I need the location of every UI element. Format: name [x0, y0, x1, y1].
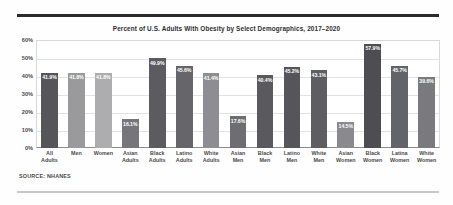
bar-value-label: 45.7% — [391, 67, 408, 73]
top-divider-rule — [17, 14, 439, 17]
bar-slot: 43.1% — [305, 40, 332, 148]
x-category-label-line: Asian — [117, 150, 144, 157]
x-category-label: BlackAdults — [144, 150, 171, 165]
x-category-label-line: Adults — [36, 157, 63, 164]
x-category-label-line: White — [413, 150, 440, 157]
bar[interactable]: 43.1% — [311, 70, 328, 148]
bar-slot: 49.9% — [144, 40, 171, 148]
y-tick-label: 30% — [3, 91, 33, 97]
bar-value-label: 41.8% — [68, 74, 85, 80]
bar-slot: 17.6% — [225, 40, 252, 148]
bar-value-label: 49.9% — [149, 60, 166, 66]
bar-slot: 40.4% — [252, 40, 279, 148]
bar-value-label: 41.8% — [95, 74, 112, 80]
x-category-label-line: Men — [225, 157, 252, 164]
y-tick-label: 20% — [3, 109, 33, 115]
bar-value-label: 16.1% — [122, 121, 139, 127]
x-category-label-line: Men — [278, 157, 305, 164]
x-category-label-line: Asian — [225, 150, 252, 157]
bar-value-label: 45.6% — [176, 67, 193, 73]
x-category-label-line: Asian — [332, 150, 359, 157]
bar-value-label: 17.6% — [230, 118, 247, 124]
bar-value-label: 39.6% — [418, 78, 435, 84]
bar-slot: 45.2% — [278, 40, 305, 148]
x-category-label-line: Black — [359, 150, 386, 157]
x-category-label-line: Men — [252, 157, 279, 164]
bar-value-label: 43.1% — [311, 72, 328, 78]
bar[interactable]: 45.6% — [176, 66, 193, 148]
x-category-label: BlackWomen — [359, 150, 386, 165]
y-tick-label: 50% — [3, 55, 33, 61]
bars-group: 41.9%41.8%41.8%16.1%49.9%45.6%41.4%17.6%… — [36, 40, 440, 148]
x-category-label-line: Latino — [278, 150, 305, 157]
x-category-label: Men — [63, 150, 90, 165]
bar[interactable]: 17.6% — [230, 116, 247, 148]
bar-value-label: 41.4% — [203, 75, 220, 81]
bar[interactable]: 39.6% — [418, 77, 435, 148]
bar-value-label: 45.2% — [284, 68, 301, 74]
x-category-label: WhiteAdults — [198, 150, 225, 165]
x-category-label-line: White — [305, 150, 332, 157]
bar-value-label: 41.9% — [41, 74, 58, 80]
bar[interactable]: 16.1% — [122, 119, 139, 148]
x-category-label: AsianWomen — [332, 150, 359, 165]
x-category-label: LatinaWomen — [386, 150, 413, 165]
bar-slot: 57.9% — [359, 40, 386, 148]
bar-value-label: 14.5% — [337, 123, 354, 129]
y-tick-label: 40% — [3, 73, 33, 79]
x-category-label-line: Latino — [171, 150, 198, 157]
y-tick-label: 10% — [3, 127, 33, 133]
x-category-label-line: Men — [63, 150, 90, 157]
bar[interactable]: 45.7% — [391, 66, 408, 148]
bar[interactable]: 41.4% — [203, 73, 220, 148]
x-category-label-line: Men — [305, 157, 332, 164]
bar-slot: 41.8% — [90, 40, 117, 148]
x-category-label-line: Women — [359, 157, 386, 164]
bar[interactable]: 14.5% — [337, 122, 354, 148]
bar[interactable]: 41.8% — [95, 73, 112, 148]
bar-slot: 41.8% — [63, 40, 90, 148]
x-category-label-line: Women — [90, 150, 117, 157]
x-axis-category-labels: AllAdultsMenWomenAsianAdultsBlackAdultsL… — [36, 150, 440, 165]
bar[interactable]: 45.2% — [284, 67, 301, 148]
x-category-label: BlackMen — [252, 150, 279, 165]
x-category-label-line: Women — [386, 157, 413, 164]
x-category-label-line: All — [36, 150, 63, 157]
x-category-label-line: Women — [332, 157, 359, 164]
x-category-label-line: Black — [144, 150, 171, 157]
x-category-label: AsianMen — [225, 150, 252, 165]
bar-slot: 14.5% — [332, 40, 359, 148]
bar-slot: 41.4% — [198, 40, 225, 148]
chart-figure: Percent of U.S. Adults With Obesity by S… — [0, 0, 453, 205]
x-category-label-line: Adults — [144, 157, 171, 164]
x-category-label-line: Adults — [171, 157, 198, 164]
y-tick-label: 60% — [3, 37, 33, 43]
bar[interactable]: 49.9% — [149, 58, 166, 148]
bar-slot: 41.9% — [36, 40, 63, 148]
x-category-label-line: White — [198, 150, 225, 157]
x-category-label: LatinoMen — [278, 150, 305, 165]
x-category-label-line: Women — [413, 157, 440, 164]
y-tick-label: 0% — [3, 145, 33, 151]
x-category-label: AsianAdults — [117, 150, 144, 165]
bar[interactable]: 40.4% — [257, 75, 274, 148]
x-category-label-line: Latina — [386, 150, 413, 157]
x-category-label-line: Black — [252, 150, 279, 157]
x-category-label: WhiteWomen — [413, 150, 440, 165]
bar[interactable]: 41.9% — [41, 73, 58, 148]
x-category-label: Women — [90, 150, 117, 165]
bar-value-label: 40.4% — [257, 77, 274, 83]
bar-value-label: 57.9% — [364, 45, 381, 51]
chart-title: Percent of U.S. Adults With Obesity by S… — [0, 25, 453, 32]
bar[interactable]: 57.9% — [364, 44, 381, 148]
source-note: SOURCE: NHANES — [19, 173, 71, 179]
x-category-label-line: Adults — [117, 157, 144, 164]
bar-slot: 39.6% — [413, 40, 440, 148]
bar-slot: 45.6% — [171, 40, 198, 148]
x-category-label: AllAdults — [36, 150, 63, 165]
bar-slot: 16.1% — [117, 40, 144, 148]
x-category-label: WhiteMen — [305, 150, 332, 165]
x-category-label-line: Adults — [198, 157, 225, 164]
bar-slot: 45.7% — [386, 40, 413, 148]
bar[interactable]: 41.8% — [68, 73, 85, 148]
